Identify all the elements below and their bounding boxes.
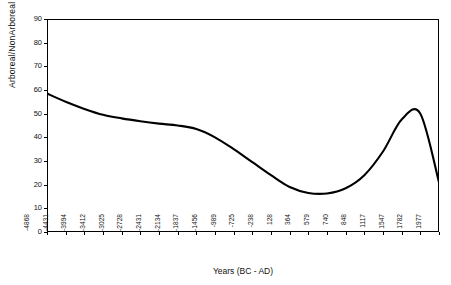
y-tick-mark — [44, 66, 47, 67]
x-tick-label: 364 — [283, 214, 293, 244]
y-tick-label: 20 — [22, 181, 42, 189]
x-tick-label: 848 — [339, 214, 349, 244]
x-tick-label: -238 — [246, 214, 256, 244]
y-tick-label: 40 — [22, 133, 42, 141]
x-tick-label: 740 — [321, 214, 331, 244]
y-tick-mark — [44, 137, 47, 138]
x-tick-label: -3025 — [97, 214, 107, 244]
y-tick-mark — [44, 19, 47, 20]
x-tick-label: -1456 — [190, 214, 200, 244]
x-tick-label: 579 — [302, 214, 312, 244]
y-tick-mark — [44, 161, 47, 162]
pollen-series-line — [47, 94, 439, 194]
y-tick-label: 60 — [22, 86, 42, 94]
x-tick-label: -2728 — [115, 214, 125, 244]
pollen-line-chart: Arboreal/NonArboreal Pollen % 0102030405… — [0, 0, 451, 285]
x-tick-label: -725 — [227, 214, 237, 244]
y-tick-mark — [44, 90, 47, 91]
x-tick-label: 1782 — [395, 214, 405, 244]
x-tick-label-wrap: 1977 — [434, 234, 444, 264]
x-tick-label: -3994 — [59, 214, 69, 244]
x-tick-label: 1547 — [377, 214, 387, 244]
x-tick-label: -1837 — [171, 214, 181, 244]
x-tick-label: 1977 — [414, 214, 424, 244]
y-tick-mark — [44, 43, 47, 44]
plot-area — [47, 19, 439, 232]
y-tick-label: 30 — [22, 157, 42, 165]
y-axis-title: Arboreal/NonArboreal Pollen % — [3, 0, 21, 139]
x-tick-label: -2431 — [134, 214, 144, 244]
y-tick-label: 50 — [22, 110, 42, 118]
y-tick-label: 10 — [22, 204, 42, 212]
x-tick-label: -989 — [209, 214, 219, 244]
x-tick-label: -2134 — [153, 214, 163, 244]
y-tick-mark — [44, 114, 47, 115]
y-tick-label: 70 — [22, 62, 42, 70]
x-tick-label: 1117 — [358, 214, 368, 244]
x-tick-label: -4431 — [41, 214, 51, 244]
x-tick-label: -3412 — [78, 214, 88, 244]
x-tick-label: -4868 — [22, 214, 32, 244]
x-tick-label: 128 — [265, 214, 275, 244]
x-axis-title: Years (BC - AD) — [47, 266, 439, 276]
y-tick-mark — [44, 185, 47, 186]
y-tick-label: 80 — [22, 39, 42, 47]
y-tick-mark — [44, 208, 47, 209]
y-tick-label: 90 — [22, 15, 42, 23]
